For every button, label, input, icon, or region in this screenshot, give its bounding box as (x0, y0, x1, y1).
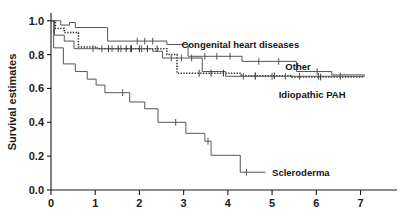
x-tick-label: 6 (313, 197, 319, 209)
curve-label-idiopathic-pah: Idiopathic PAH (279, 89, 346, 100)
x-tick-label: 0 (48, 197, 54, 209)
x-axis-ticks: 01234567 (48, 190, 364, 209)
y-axis-title: Survival estimates (6, 54, 18, 151)
survival-chart-figure: Survival estimates 0.00.20.40.60.81.0 01… (0, 0, 404, 224)
y-tick-label: 0.0 (29, 184, 44, 196)
y-tick-label: 0.6 (29, 82, 44, 94)
x-tick-label: 1 (92, 197, 98, 209)
x-tick-label: 4 (225, 197, 232, 209)
curve-label-other: Other (285, 61, 311, 72)
x-tick-label: 3 (181, 197, 187, 209)
x-tick-label: 5 (269, 197, 275, 209)
y-axis-ticks: 0.00.20.40.60.81.0 (29, 15, 51, 196)
y-tick-label: 0.8 (29, 49, 44, 61)
kaplan-meier-plot: Survival estimates 0.00.20.40.60.81.0 01… (0, 0, 404, 224)
y-tick-label: 0.4 (29, 116, 45, 128)
curve-label-scleroderma: Scleroderma (272, 167, 330, 178)
y-axis-title-text: Survival estimates (6, 54, 18, 151)
x-tick-label: 7 (357, 197, 363, 209)
curve-labels: Congenital heart diseasesOtherIdiopathic… (181, 39, 345, 179)
y-tick-label: 1.0 (29, 15, 44, 27)
y-tick-label: 0.2 (29, 150, 44, 162)
x-tick-label: 2 (136, 197, 142, 209)
curve-label-congenital-heart-diseases: Congenital heart diseases (181, 39, 299, 50)
